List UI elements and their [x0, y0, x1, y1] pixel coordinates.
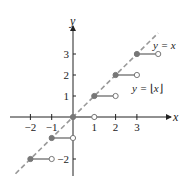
closed-endpoint — [49, 135, 54, 140]
y-axis-label: y — [69, 14, 76, 28]
step-segment — [70, 114, 97, 119]
closed-endpoint — [92, 93, 97, 98]
closed-endpoint — [134, 51, 139, 56]
floor-label-prefix: y = — [131, 82, 150, 94]
open-endpoint — [92, 114, 97, 119]
y-tick-label: 1 — [64, 90, 70, 102]
y-tick-label: 2 — [64, 69, 70, 81]
y-tick-label: −2 — [57, 153, 69, 165]
closed-endpoint — [113, 72, 118, 77]
identity-line-label-text: y = x — [152, 39, 176, 51]
x-tick-label: 1 — [92, 121, 98, 133]
ticks: −2−1123321−2 — [25, 48, 141, 165]
step-segment — [134, 51, 161, 56]
x-axis-label: x — [172, 110, 179, 124]
closed-endpoint — [70, 114, 75, 119]
step-segment — [92, 93, 118, 98]
open-endpoint — [156, 51, 161, 56]
floor-function-chart: x y −2−1123321−2 y = x y = ⌊x⌋ — [0, 0, 189, 184]
floor-steps — [28, 51, 161, 161]
open-endpoint — [49, 156, 54, 161]
x-tick-label: −2 — [25, 121, 37, 133]
floor-bracket-right: ⌋ — [159, 82, 163, 94]
x-tick-label: 2 — [113, 121, 119, 133]
x-tick-label: −1 — [46, 121, 58, 133]
identity-line-label: y = x — [152, 39, 176, 51]
step-segment — [113, 72, 139, 77]
open-endpoint — [113, 93, 118, 98]
y-tick-label: 3 — [64, 48, 70, 60]
floor-function-label: y = ⌊x⌋ — [131, 82, 163, 94]
open-endpoint — [70, 135, 75, 140]
step-segment — [49, 135, 75, 140]
x-tick-label: 3 — [134, 121, 140, 133]
step-segment — [28, 156, 55, 161]
open-endpoint — [134, 72, 139, 77]
closed-endpoint — [28, 156, 33, 161]
annotations: y = x y = ⌊x⌋ — [131, 39, 176, 94]
